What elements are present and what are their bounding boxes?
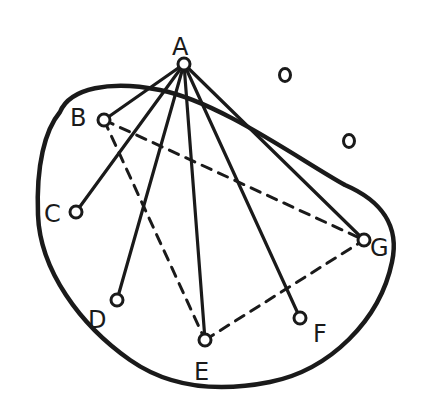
node-label-e: E [194, 358, 209, 386]
isolated-point-1 [280, 69, 291, 82]
node-d [111, 294, 123, 306]
dashed-edge-e-g [205, 240, 364, 340]
node-f [294, 312, 306, 324]
node-label-a: A [172, 33, 189, 61]
node-label-c: C [44, 200, 61, 228]
node-label-d: D [88, 306, 106, 334]
node-g [358, 234, 370, 246]
node-e [199, 334, 211, 346]
solid-edge-a-g [184, 64, 364, 240]
isolated-point-2 [344, 135, 355, 148]
diagram-canvas: ABCDEFG [0, 0, 422, 414]
node-b [98, 114, 110, 126]
node-label-g: G [370, 234, 389, 262]
node-c [70, 206, 82, 218]
dashed-edge-b-g [104, 120, 364, 240]
isolated-points [280, 69, 355, 148]
dashed-edges [104, 120, 364, 340]
graph-diagram: ABCDEFG [0, 0, 422, 414]
node-label-b: B [70, 104, 86, 132]
node-label-f: F [313, 320, 327, 348]
solid-edge-a-d [117, 64, 184, 300]
